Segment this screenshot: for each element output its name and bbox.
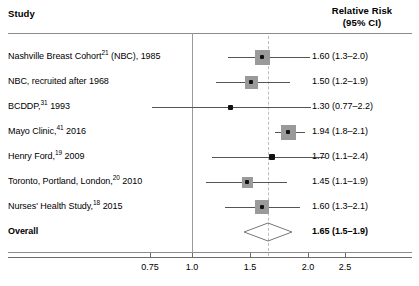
confidence-interval-line bbox=[216, 82, 290, 83]
x-axis-tick-label: 1.0 bbox=[172, 262, 212, 272]
x-axis-tick bbox=[308, 253, 309, 257]
x-axis-tick bbox=[250, 253, 251, 257]
x-axis-tick-label: 2.5 bbox=[325, 262, 365, 272]
study-label: NBC, recruited after 1968 bbox=[8, 76, 109, 86]
study-marker-square bbox=[281, 125, 296, 140]
relative-risk-value: 1.94 (1.8–2.1) bbox=[312, 126, 412, 136]
confidence-interval-line bbox=[225, 207, 300, 208]
x-axis-tick-label: 0.75 bbox=[130, 262, 170, 272]
confidence-interval-line bbox=[152, 107, 311, 108]
study-label: Mayo Clinic,41 2016 bbox=[8, 126, 86, 136]
study-marker-square bbox=[245, 76, 258, 89]
study-point-estimate bbox=[245, 180, 249, 184]
x-axis-tick-label: 1.5 bbox=[230, 262, 270, 272]
study-point-estimate bbox=[286, 130, 290, 134]
study-marker-square bbox=[255, 200, 269, 214]
confidence-interval-line bbox=[206, 182, 287, 183]
relative-risk-value: 1.30 (0.77–2.2) bbox=[312, 101, 412, 111]
null-reference-line bbox=[192, 33, 193, 257]
pooled-effect-reference-line bbox=[268, 36, 269, 256]
study-point-estimate bbox=[249, 80, 253, 84]
x-axis-line bbox=[8, 257, 412, 258]
relative-risk-value: 1.45 (1.1–1.9) bbox=[312, 176, 412, 186]
plot-area bbox=[0, 0, 419, 286]
study-point-estimate bbox=[228, 105, 233, 110]
study-point-estimate bbox=[260, 55, 264, 59]
column-header-rr-line1: Relative Risk bbox=[332, 5, 392, 16]
x-axis-tick bbox=[345, 253, 346, 257]
study-label: Toronto, Portland, London,20 2010 bbox=[8, 176, 142, 186]
x-axis-tick bbox=[150, 253, 151, 257]
study-label: Henry Ford,19 2009 bbox=[8, 151, 84, 161]
study-point-estimate bbox=[269, 154, 275, 160]
study-label-overall: Overall bbox=[8, 226, 38, 236]
relative-risk-value: 1.70 (1.1–2.4) bbox=[312, 151, 412, 161]
x-axis-tick-label: 2.0 bbox=[288, 262, 328, 272]
confidence-interval-line bbox=[228, 57, 310, 58]
study-marker-square bbox=[242, 177, 253, 188]
study-label: BCDDP,31 1993 bbox=[8, 101, 70, 111]
relative-risk-value: 1.50 (1.2–1.9) bbox=[312, 76, 412, 86]
relative-risk-value-overall: 1.65 (1.5–1.9) bbox=[312, 226, 412, 236]
confidence-interval-line bbox=[275, 132, 305, 133]
forest-plot: Study Relative Risk (95% CI) Nashville B… bbox=[0, 0, 419, 286]
relative-risk-value: 1.60 (1.3–2.0) bbox=[312, 51, 412, 61]
study-label: Nurses' Health Study,18 2015 bbox=[8, 201, 122, 211]
study-point-estimate bbox=[260, 205, 264, 209]
header-divider bbox=[8, 33, 412, 34]
footer-divider bbox=[8, 252, 412, 253]
study-label: Nashville Breast Cohort21 (NBC), 1985 bbox=[8, 51, 160, 61]
x-axis-tick bbox=[192, 253, 193, 257]
column-header-rr-line2: (95% CI) bbox=[343, 17, 381, 28]
relative-risk-value: 1.60 (1.3–2.1) bbox=[312, 201, 412, 211]
column-header-study: Study bbox=[8, 8, 35, 19]
column-header-relative-risk: Relative Risk (95% CI) bbox=[312, 5, 412, 28]
